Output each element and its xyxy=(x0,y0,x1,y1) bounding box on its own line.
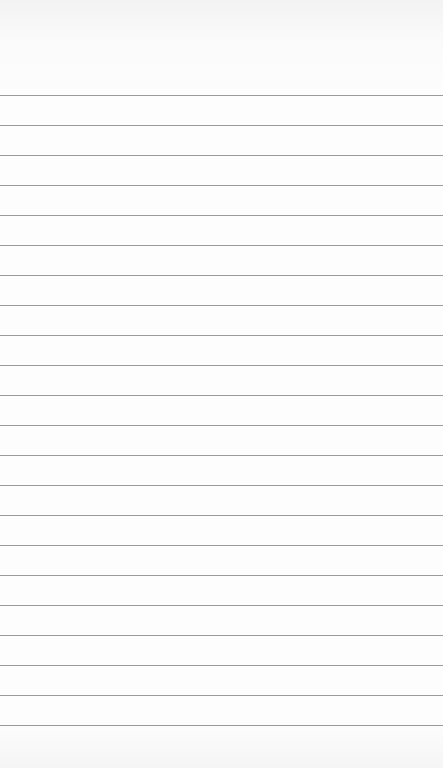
ruled-line xyxy=(0,605,443,606)
ruled-line xyxy=(0,635,443,636)
ruled-line xyxy=(0,185,443,186)
ruled-line xyxy=(0,305,443,306)
ruled-line xyxy=(0,275,443,276)
ruled-line xyxy=(0,695,443,696)
ruled-line xyxy=(0,335,443,336)
ruled-line xyxy=(0,575,443,576)
lined-paper xyxy=(0,0,443,768)
ruled-line xyxy=(0,155,443,156)
ruled-line xyxy=(0,215,443,216)
ruled-line xyxy=(0,455,443,456)
ruled-line xyxy=(0,95,443,96)
ruled-line xyxy=(0,665,443,666)
ruled-line xyxy=(0,545,443,546)
ruled-line xyxy=(0,725,443,726)
ruled-line xyxy=(0,125,443,126)
ruled-line xyxy=(0,425,443,426)
ruled-line xyxy=(0,245,443,246)
ruled-line xyxy=(0,395,443,396)
ruled-line xyxy=(0,515,443,516)
ruled-line xyxy=(0,365,443,366)
ruled-line xyxy=(0,485,443,486)
